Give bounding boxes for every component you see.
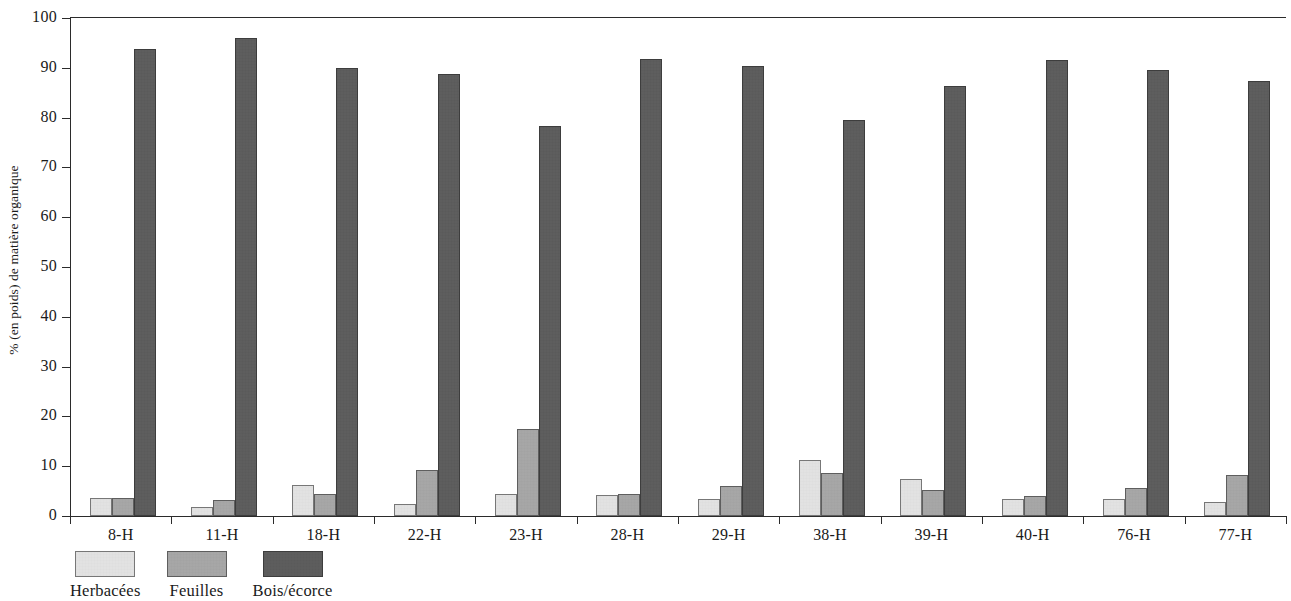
x-axis-tick <box>779 516 780 524</box>
y-axis-tick <box>62 317 70 318</box>
bar-77-h-feuilles <box>1226 475 1248 516</box>
x-axis-tick <box>475 516 476 524</box>
y-axis-tick <box>62 18 70 19</box>
y-axis-tick-label: 60 <box>23 208 57 224</box>
bar-76-h-herbac-es <box>1103 499 1125 516</box>
bar-23-h-herbac-es <box>495 494 517 516</box>
y-axis-tick-label: 20 <box>23 407 57 423</box>
legend-label: Bois/écorce <box>253 581 333 600</box>
bar-18-h-feuilles <box>314 494 336 516</box>
bar-38-h-feuilles <box>821 473 843 516</box>
legend-swatch-icon <box>263 551 323 577</box>
x-axis-tick <box>374 516 375 524</box>
x-axis-label-29-h: 29-H <box>678 526 779 544</box>
x-axis-label-77-h: 77-H <box>1185 526 1286 544</box>
x-axis-label-23-h: 23-H <box>475 526 576 544</box>
y-axis-tick-label: 100 <box>23 9 57 25</box>
bar-22-h-feuilles <box>416 470 438 516</box>
bar-8-h-herbac-es <box>90 498 112 516</box>
bar-23-h-feuilles <box>517 429 539 516</box>
x-axis-tick <box>881 516 882 524</box>
x-axis-tick <box>982 516 983 524</box>
x-axis-label-8-h: 8-H <box>70 526 171 544</box>
x-axis-label-18-h: 18-H <box>273 526 374 544</box>
legend-item-herbac-es: Herbacées <box>70 551 141 600</box>
x-axis-tick <box>1185 516 1186 524</box>
chart-legend: HerbacéesFeuillesBois/écorce <box>70 551 359 600</box>
x-axis-label-76-h: 76-H <box>1083 526 1184 544</box>
bar-40-h-feuilles <box>1024 496 1046 516</box>
bar-22-h-herbac-es <box>394 504 416 516</box>
bar-76-h-bois-corce <box>1147 70 1169 516</box>
x-axis-tick <box>70 516 71 524</box>
bar-40-h-herbac-es <box>1002 499 1024 516</box>
y-axis-tick-label: 50 <box>23 258 57 274</box>
x-axis-tick <box>1286 516 1287 524</box>
bar-39-h-bois-corce <box>944 86 966 516</box>
bar-28-h-herbac-es <box>596 495 618 516</box>
bar-22-h-bois-corce <box>438 74 460 516</box>
legend-item-feuilles: Feuilles <box>167 551 227 600</box>
y-axis-tick-label: 70 <box>23 158 57 174</box>
bar-29-h-bois-corce <box>742 66 764 516</box>
y-axis-tick-label: 40 <box>23 308 57 324</box>
bar-39-h-feuilles <box>922 490 944 516</box>
bar-28-h-feuilles <box>618 494 640 516</box>
bar-11-h-herbac-es <box>191 507 213 516</box>
bar-8-h-bois-corce <box>134 49 156 516</box>
bar-11-h-bois-corce <box>235 38 257 516</box>
x-axis-label-39-h: 39-H <box>881 526 982 544</box>
bar-18-h-herbac-es <box>292 485 314 516</box>
y-axis-tick <box>62 516 70 517</box>
y-axis-tick-label: 0 <box>23 507 57 523</box>
x-axis-tick <box>678 516 679 524</box>
legend-label: Feuilles <box>170 581 224 600</box>
legend-swatch-icon <box>167 551 227 577</box>
y-axis-tick <box>62 167 70 168</box>
bar-38-h-herbac-es <box>799 460 821 516</box>
y-axis-tick <box>62 118 70 119</box>
x-axis-tick <box>1083 516 1084 524</box>
bar-29-h-feuilles <box>720 486 742 516</box>
legend-item-bois-corce: Bois/écorce <box>253 551 333 600</box>
bar-77-h-bois-corce <box>1248 81 1270 516</box>
x-axis-label-28-h: 28-H <box>577 526 678 544</box>
bar-38-h-bois-corce <box>843 120 865 516</box>
y-axis-title-text: % (en poids) de matière organique <box>6 165 22 354</box>
y-axis-tick <box>62 416 70 417</box>
y-axis-tick <box>62 68 70 69</box>
x-axis-label-38-h: 38-H <box>779 526 880 544</box>
bar-40-h-bois-corce <box>1046 60 1068 516</box>
bar-23-h-bois-corce <box>539 126 561 516</box>
bar-8-h-feuilles <box>112 498 134 516</box>
y-axis-tick <box>62 367 70 368</box>
plot-area <box>70 18 1285 516</box>
x-axis-label-40-h: 40-H <box>982 526 1083 544</box>
y-axis-tick-label: 90 <box>23 59 57 75</box>
bar-39-h-herbac-es <box>900 479 922 516</box>
bar-29-h-herbac-es <box>698 499 720 516</box>
legend-swatch-icon <box>75 551 135 577</box>
y-axis-tick-label: 10 <box>23 457 57 473</box>
x-axis-tick <box>577 516 578 524</box>
bar-chart: % (en poids) de matière organique 100908… <box>0 0 1291 601</box>
y-axis-tick <box>62 466 70 467</box>
x-axis-label-11-h: 11-H <box>171 526 272 544</box>
y-axis-tick-label: 80 <box>23 109 57 125</box>
legend-label: Herbacées <box>70 581 141 600</box>
x-axis-label-22-h: 22-H <box>374 526 475 544</box>
y-axis-tick <box>62 267 70 268</box>
bar-76-h-feuilles <box>1125 488 1147 516</box>
bar-11-h-feuilles <box>213 500 235 516</box>
x-axis-tick <box>273 516 274 524</box>
x-axis-tick <box>171 516 172 524</box>
bar-77-h-herbac-es <box>1204 502 1226 516</box>
bar-28-h-bois-corce <box>640 59 662 516</box>
y-axis-tick <box>62 217 70 218</box>
bar-18-h-bois-corce <box>336 68 358 516</box>
y-axis-tick-label: 30 <box>23 358 57 374</box>
